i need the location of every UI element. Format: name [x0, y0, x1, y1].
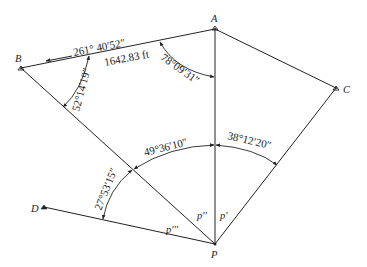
line-label-p-triple-prime: p''' — [165, 224, 179, 235]
point-label-B: B — [15, 53, 22, 64]
survey-traverse-diagram: A B C D P p' p'' p''' 261° 40′52″ 1642.8… — [0, 0, 367, 267]
point-label-D: D — [30, 203, 39, 214]
point-label-P: P — [210, 249, 218, 260]
line-D-P — [44, 207, 215, 244]
line-C-P — [215, 88, 336, 244]
point-label-C: C — [343, 84, 351, 95]
angle-label-A: 78°09′31″ — [159, 51, 202, 86]
station-marker-A — [212, 26, 218, 30]
line-label-p-double-prime: p'' — [196, 210, 207, 221]
line-label-p-prime: p' — [219, 210, 228, 221]
line-B-P — [21, 68, 215, 244]
angle-label-B: 52°14′19″ — [69, 67, 92, 113]
point-label-A: A — [210, 13, 218, 24]
line-A-C — [215, 29, 336, 88]
angle-label-P-AC: 38°12′20″ — [227, 129, 273, 151]
station-marker-P — [214, 243, 217, 246]
angle-label-P-BA: 49°36′10″ — [143, 136, 189, 158]
